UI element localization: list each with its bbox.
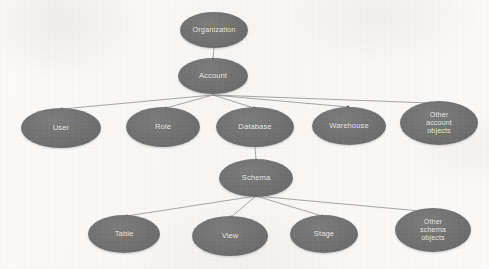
node-other_account[interactable]: Otheraccountobjects xyxy=(400,101,478,145)
node-label-user: User xyxy=(49,124,73,133)
node-label-stage: Stage xyxy=(310,230,338,239)
node-account[interactable]: Account xyxy=(178,58,248,94)
object-hierarchy-diagram: OrganizationAccountUserRoleDatabaseWareh… xyxy=(0,0,489,269)
node-schema[interactable]: Schema xyxy=(219,159,293,197)
node-stage[interactable]: Stage xyxy=(290,215,358,253)
edge-account-to-warehouse xyxy=(213,95,350,109)
node-label-role: Role xyxy=(151,123,175,132)
node-other_schema[interactable]: Otherschemaobjects xyxy=(395,208,471,252)
node-label-other_schema: Otherschemaobjects xyxy=(416,218,450,242)
node-label-database: Database xyxy=(234,123,275,132)
node-label-account: Account xyxy=(195,72,231,81)
edge-account-to-user xyxy=(60,95,213,111)
node-label-view: View xyxy=(218,232,243,241)
node-database[interactable]: Database xyxy=(216,107,294,147)
node-warehouse[interactable]: Warehouse xyxy=(312,107,386,145)
edge-schema-to-other_schema xyxy=(256,196,422,213)
node-user[interactable]: User xyxy=(21,108,101,148)
node-view[interactable]: View xyxy=(192,216,268,256)
node-role[interactable]: Role xyxy=(126,107,200,147)
edge-schema-to-table xyxy=(125,196,256,218)
node-label-other_account: Otheraccountobjects xyxy=(422,111,456,135)
node-label-warehouse: Warehouse xyxy=(325,122,372,131)
edge-schema-to-stage xyxy=(256,196,324,218)
node-label-organization: Organization xyxy=(188,26,239,34)
edge-account-to-other_account xyxy=(213,95,432,105)
node-organization[interactable]: Organization xyxy=(180,12,248,48)
node-label-schema: Schema xyxy=(238,174,274,183)
node-label-table: Table xyxy=(111,230,138,239)
node-table[interactable]: Table xyxy=(88,215,160,253)
